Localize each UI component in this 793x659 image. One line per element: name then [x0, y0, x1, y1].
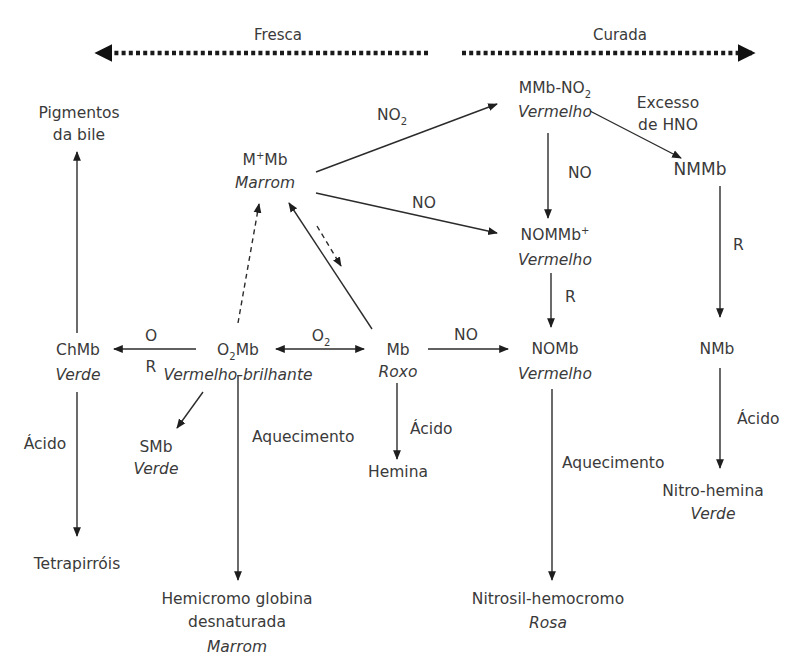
sulfmyoglobin-color: Verde — [134, 460, 179, 478]
nitrosylmetmyoglobin-name: NOMMb+ — [521, 225, 590, 244]
excess-hno-line2: de HNO — [638, 116, 698, 134]
edge-label-acid-mb: Ácido — [410, 419, 452, 438]
sulfmyoglobin-name: SMb — [139, 438, 172, 456]
nitrosyl-hemochrome-color: Rosa — [529, 614, 567, 632]
nitrosyl-hemochrome-name: Nitrosil-hemocromo — [472, 590, 624, 608]
node-nitrimyoglobin: NMb — [700, 340, 735, 358]
node-myoglobin: Mb Roxo — [379, 341, 418, 381]
edge-label-no-mmbno2: NO — [568, 164, 592, 182]
nitrometmyoglobin-color: Vermelho — [518, 103, 592, 121]
node-denatured-globin-hemichrome: Hemicromo globina desnaturada Marrom — [161, 590, 312, 656]
node-bile-pigments: Pigmentos da bile — [38, 104, 119, 144]
cured-label: Curada — [593, 26, 647, 44]
arrow-mb-to-mmb — [289, 203, 372, 329]
edge-label-o: O — [145, 327, 157, 345]
fresh-label: Fresca — [254, 26, 302, 44]
nitrometmyoglobin-name: MMb-NO2 — [519, 79, 591, 100]
edge-label-heating-nomb: Aquecimento — [562, 454, 664, 472]
edge-label-r-nmmb: R — [733, 236, 744, 254]
node-sulfmyoglobin: SMb Verde — [134, 438, 179, 478]
node-tetrapyrroles: Tetrapirróis — [33, 555, 120, 573]
nitrohemin-color: Verde — [691, 505, 736, 523]
oxymyoglobin-name: O2Mb — [217, 341, 259, 362]
hemichrome-line2: desnaturada — [188, 613, 286, 631]
edge-label-no-mmb: NO — [412, 194, 436, 212]
nitrohemin-name: Nitro-hemina — [662, 482, 763, 500]
bile-pigments-line1: Pigmentos — [38, 104, 119, 122]
metmyoglobin-name: M+Mb — [243, 150, 288, 169]
nitrosylmyoglobin-color: Vermelho — [518, 365, 592, 383]
edge-label-heating-o2mb: Aquecimento — [252, 428, 354, 446]
bile-pigments-line2: da bile — [53, 126, 105, 144]
arrow-o2mb-to-mmb-dashed — [238, 204, 259, 323]
node-nitrimetmyoglobin: NMMb — [674, 159, 727, 179]
arrow-o2mb-to-smb — [177, 392, 203, 428]
hemichrome-color: Marrom — [207, 638, 267, 656]
node-nitrosylmyoglobin: NOMb Vermelho — [518, 340, 592, 383]
edge-label-r-nommb: R — [565, 288, 576, 306]
arrow-mmb-to-mb-dashed — [317, 226, 341, 266]
node-hemin: Hemina — [368, 463, 428, 481]
edge-label-acid-nmb: Ácido — [737, 409, 779, 428]
metmyoglobin-color: Marrom — [235, 174, 295, 192]
edge-label-r-chmb: R — [146, 358, 157, 376]
node-nitrosylmetmyoglobin: NOMMb+ Vermelho — [518, 225, 592, 269]
label-excess-hno: Excesso de HNO — [637, 94, 699, 134]
node-cholemyoglobin: ChMb Verde — [56, 341, 101, 384]
nitrosylmyoglobin-name: NOMb — [531, 340, 578, 358]
excess-hno-line1: Excesso — [637, 94, 699, 112]
arrow-mmb-to-mmbno2 — [316, 104, 497, 172]
node-metmyoglobin: M+Mb Marrom — [235, 150, 295, 192]
edge-label-acid-chmb: Ácido — [24, 434, 66, 453]
nitrosylmetmyoglobin-color: Vermelho — [518, 251, 592, 269]
myoglobin-color: Roxo — [379, 363, 418, 381]
arrow-mmb-to-nommb — [316, 193, 497, 233]
cholemyoglobin-color: Verde — [56, 366, 101, 384]
myoglobin-name: Mb — [386, 341, 409, 359]
cholemyoglobin-name: ChMb — [56, 341, 100, 359]
node-nitrohemin: Nitro-hemina Verde — [662, 482, 763, 523]
myoglobin-reaction-diagram: Fresca Curada Pigmentos da bile M+Mb Mar… — [0, 0, 793, 659]
hemichrome-line1: Hemicromo globina — [161, 590, 312, 608]
node-nitrometmyoglobin: MMb-NO2 Vermelho — [518, 79, 592, 121]
edge-label-no2: NO2 — [377, 106, 407, 127]
edge-label-no-mb: NO — [454, 326, 478, 344]
edge-label-o2: O2 — [312, 327, 331, 348]
node-nitrosyl-hemochrome: Nitrosil-hemocromo Rosa — [472, 590, 624, 632]
